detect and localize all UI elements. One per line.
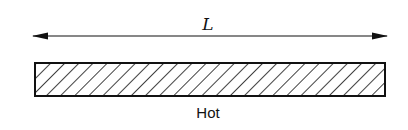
rod-diagram: L Hot bbox=[0, 0, 408, 130]
length-label: L bbox=[201, 14, 213, 34]
hot-label: Hot bbox=[196, 104, 220, 121]
hatched-rod bbox=[35, 63, 385, 96]
